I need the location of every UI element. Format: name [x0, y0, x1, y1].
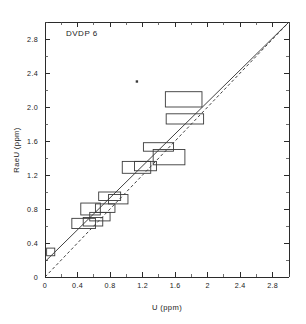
data-box: [81, 203, 101, 215]
y-tick-label: 2.4: [27, 69, 38, 78]
data-box: [95, 204, 115, 213]
x-tick-label: 1.2: [137, 281, 148, 290]
x-tick-label: 1.6: [170, 281, 181, 290]
chart-figure: 00.40.81.21.622.42.8 00.40.81.21.62.02.4…: [0, 0, 306, 324]
data-points: [136, 80, 138, 82]
x-tick-label: 0.4: [72, 281, 83, 290]
y-tick-label: 2.8: [27, 35, 38, 44]
data-point-marker: [136, 80, 138, 82]
data-box: [166, 114, 203, 124]
x-tick-label: 2.4: [235, 281, 246, 290]
x-tick-label: 0: [43, 281, 47, 290]
y-tick-label: 2.0: [27, 103, 38, 112]
y-tick-label: 0: [34, 273, 38, 282]
x-axis-title: U (ppm): [152, 303, 182, 312]
data-box: [165, 92, 202, 107]
data-box: [153, 150, 185, 165]
x-tick-label: 2: [206, 281, 210, 290]
regression-line: [45, 22, 289, 262]
x-tick-label: 0.8: [105, 281, 116, 290]
data-box: [47, 248, 55, 256]
scatter-plot-svg: 00.40.81.21.622.42.8 00.40.81.21.62.02.4…: [0, 0, 306, 324]
data-box: [99, 192, 121, 201]
data-boxes: [47, 92, 204, 256]
x-tick-labels: 00.40.81.21.622.42.8: [43, 281, 278, 290]
y-tick-label: 1.2: [27, 171, 38, 180]
y-tick-label: 0.8: [27, 205, 38, 214]
y-tick-label: 0.4: [27, 239, 38, 248]
y-tick-labels: 00.40.81.21.62.02.42.8: [27, 35, 38, 282]
y-axis-title: RaeU (ppm): [12, 127, 21, 172]
y-tick-label: 1.6: [27, 137, 38, 146]
plot-annotation-label: DVDP 6: [66, 29, 98, 38]
x-tick-label: 2.8: [267, 281, 278, 290]
